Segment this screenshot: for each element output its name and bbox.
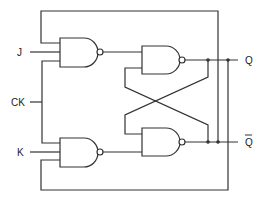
nand-gate-j xyxy=(60,38,103,67)
nand-gate-latch-top xyxy=(142,46,185,74)
ck-label: CK xyxy=(11,97,25,108)
nand-gate-latch-bottom xyxy=(142,128,185,156)
junction-dot xyxy=(206,58,210,62)
junction-dot xyxy=(216,140,220,144)
junction-dot xyxy=(206,140,210,144)
q-bar-label: Q xyxy=(245,137,253,148)
ck-bus-wire xyxy=(42,61,60,143)
j-label: J xyxy=(17,47,22,58)
k-label: K xyxy=(17,147,24,158)
junction-dot xyxy=(226,58,230,62)
jk-flip-flop-diagram: J CK K Q Q xyxy=(0,0,265,201)
nand-gate-k xyxy=(60,138,103,167)
top-feedback-wire xyxy=(41,11,218,142)
bottom-feedback-wire xyxy=(41,60,228,190)
q-label: Q xyxy=(245,55,253,66)
